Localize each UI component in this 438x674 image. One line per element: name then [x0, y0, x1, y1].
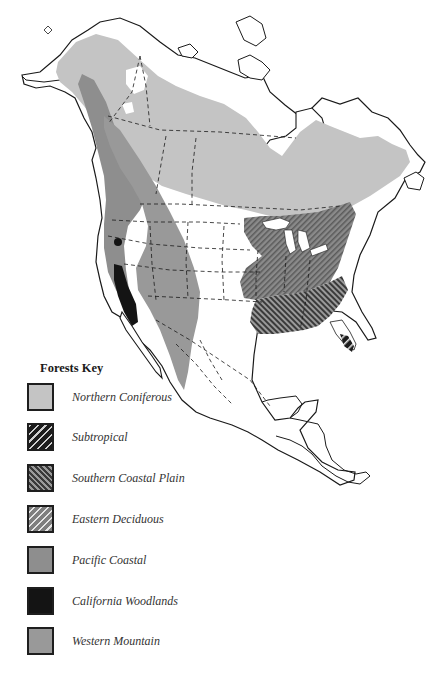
legend-label: Northern Coniferous: [72, 390, 172, 405]
california-woodlands-swatch: [27, 587, 54, 615]
legend-label: Western Mountain: [72, 634, 160, 649]
legend-item-western-mountain: Western Mountain: [27, 626, 160, 656]
western-mountain-swatch: [27, 627, 54, 655]
legend-item-subtropical: Subtropical: [27, 422, 128, 452]
legend-item-pacific-coastal: Pacific Coastal: [27, 545, 146, 575]
subtropical-swatch: [27, 423, 54, 451]
legend-item-southern-coastal-plain: Southern Coastal Plain: [27, 463, 185, 493]
legend-title: Forests Key: [40, 361, 103, 376]
legend-item-eastern-deciduous: Eastern Deciduous: [27, 504, 164, 534]
forest-map-figure: Forests Key Northern Coniferous Subtropi…: [0, 0, 438, 674]
eastern-deciduous-swatch: [27, 505, 54, 533]
legend-label: California Woodlands: [72, 594, 178, 609]
pacific-coastal-swatch: [27, 546, 54, 574]
legend-label: Southern Coastal Plain: [72, 471, 185, 486]
legend-label: Eastern Deciduous: [72, 512, 164, 527]
legend-item-northern-coniferous: Northern Coniferous: [27, 382, 172, 412]
legend-item-california-woodlands: California Woodlands: [27, 586, 178, 616]
legend-label: Pacific Coastal: [72, 553, 146, 568]
legend-label: Subtropical: [72, 430, 128, 445]
southern-coastal-plain-swatch: [27, 464, 54, 492]
northern-coniferous-swatch: [27, 383, 54, 411]
